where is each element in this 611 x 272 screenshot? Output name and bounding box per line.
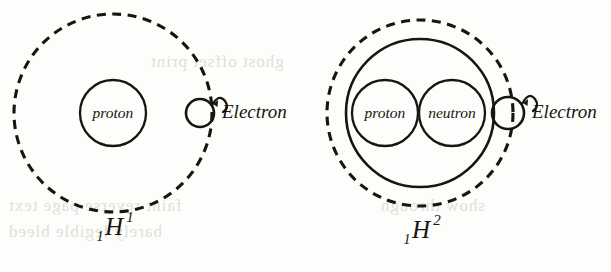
caption-mass-number: 2 [433, 212, 441, 228]
electron-label: Electron [531, 101, 597, 122]
caption-mass-number: 1 [126, 209, 134, 225]
electron-circle [186, 99, 214, 127]
atomic-structure-figure: ghost offset print faint reverse page te… [0, 0, 611, 272]
diagram-canvas: proton Electron 1 H 1 proton [0, 0, 611, 272]
caption-atomic-number: 1 [97, 229, 104, 244]
caption-atomic-number: 1 [404, 232, 411, 247]
isotope-caption-deuterium: 1 H 2 [404, 212, 442, 247]
atom-protium: proton Electron 1 H 1 [14, 14, 287, 244]
electron-label: Electron [221, 101, 287, 122]
particle-proton: proton [352, 80, 418, 146]
electron-circle [492, 97, 524, 129]
particle-proton: proton [80, 80, 146, 146]
particle-neutron: neutron [419, 80, 485, 146]
neutron-label: neutron [428, 104, 476, 121]
proton-label: proton [364, 104, 406, 121]
isotope-caption-protium: 1 H 1 [97, 209, 134, 244]
electron-group: Electron [492, 96, 597, 129]
caption-symbol: H [104, 213, 125, 240]
proton-label: proton [92, 104, 134, 121]
electron-group: Electron [186, 98, 287, 127]
atom-deuterium: proton neutron Electron 1 H 2 [327, 20, 597, 247]
caption-symbol: H [411, 216, 432, 243]
